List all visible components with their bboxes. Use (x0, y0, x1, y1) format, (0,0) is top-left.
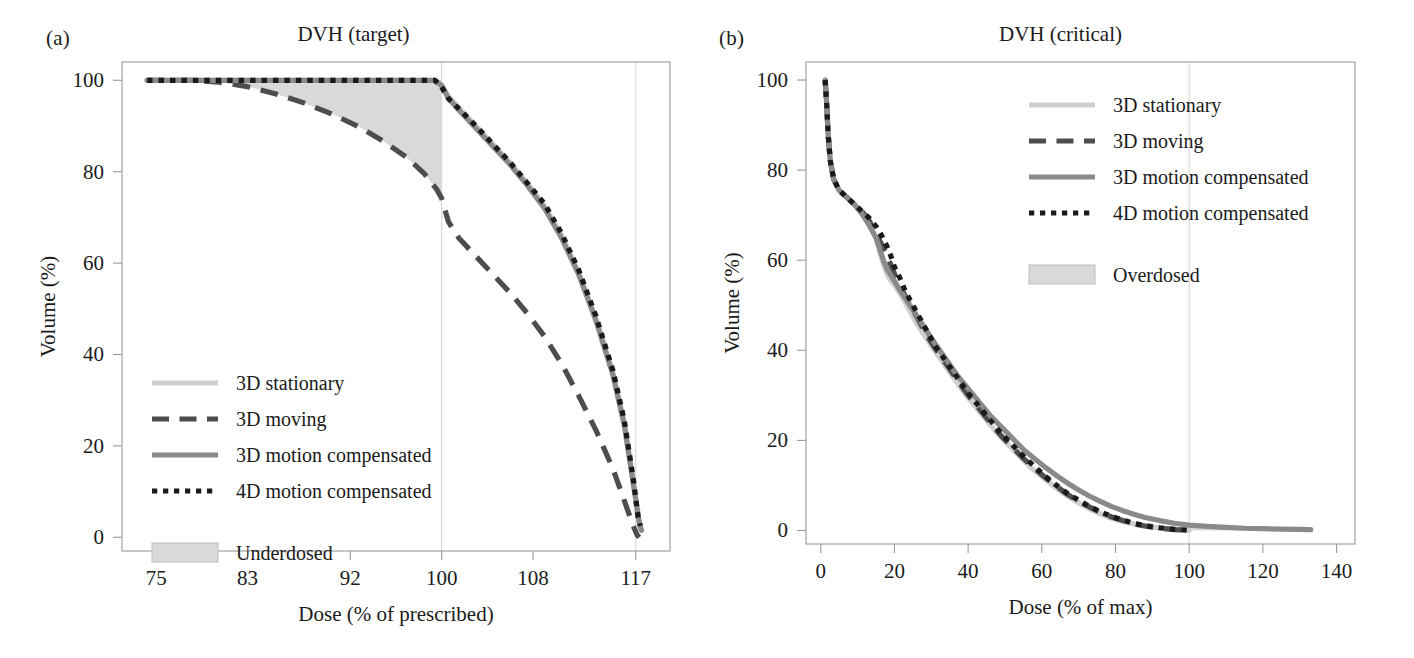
legend-label-4d-motion-compensated: 4D motion compensated (236, 480, 432, 503)
legend-label-overdosed: Overdosed (1113, 264, 1200, 286)
x-axis-title: Dose (% of max) (1008, 595, 1152, 619)
legend-label-3d-stationary: 3D stationary (236, 372, 344, 395)
x-tick-label-100: 100 (426, 566, 458, 590)
x-tick-label-75: 75 (146, 566, 167, 590)
x-tick-label-60: 60 (1031, 559, 1052, 583)
x-tick-label-100: 100 (1173, 559, 1205, 583)
panel-b-plot: 020406080100120140020406080100Dose (% of… (707, 0, 1414, 658)
x-tick-label-120: 120 (1247, 559, 1279, 583)
y-tick-label-80: 80 (83, 160, 104, 184)
panel-a-plot: 758392100108117020406080100Dose (% of pr… (0, 0, 707, 658)
x-tick-label-40: 40 (958, 559, 979, 583)
legend-label-4d-motion-compensated: 4D motion compensated (1113, 202, 1309, 225)
series-3d-moving (147, 80, 639, 537)
y-tick-label-60: 60 (767, 248, 788, 272)
y-tick-label-20: 20 (83, 434, 104, 458)
legend-label-3d-motion-compensated: 3D motion compensated (1113, 166, 1309, 189)
y-tick-label-0: 0 (778, 518, 789, 542)
plot-frame (806, 62, 1355, 544)
legend-swatch-underdosed (152, 543, 218, 562)
x-tick-label-140: 140 (1321, 559, 1353, 583)
x-tick-label-20: 20 (884, 559, 905, 583)
panel-a-title: DVH (target) (0, 22, 707, 47)
x-tick-label-92: 92 (340, 566, 361, 590)
y-axis-title: Volume (%) (720, 252, 744, 354)
y-tick-label-40: 40 (767, 338, 788, 362)
x-tick-label-83: 83 (237, 566, 258, 590)
y-tick-label-0: 0 (94, 525, 105, 549)
panel-a: (a) DVH (target) 75839210010811702040608… (0, 0, 707, 658)
x-tick-label-108: 108 (517, 566, 549, 590)
y-tick-label-80: 80 (767, 158, 788, 182)
dvh-figure: (a) DVH (target) 75839210010811702040608… (0, 0, 1414, 658)
legend-label-3d-motion-compensated: 3D motion compensated (236, 444, 432, 467)
legend-label-3d-moving: 3D moving (1113, 130, 1204, 153)
y-axis-title: Volume (%) (36, 256, 60, 358)
x-axis-title: Dose (% of prescribed) (298, 602, 493, 626)
x-tick-label-80: 80 (1105, 559, 1126, 583)
y-tick-label-20: 20 (767, 428, 788, 452)
legend-label-3d-moving: 3D moving (236, 408, 327, 431)
x-tick-label-0: 0 (815, 559, 826, 583)
legend-label-underdosed: Underdosed (236, 542, 333, 564)
y-tick-label-100: 100 (73, 68, 105, 92)
y-tick-label-40: 40 (83, 342, 104, 366)
y-tick-label-60: 60 (83, 251, 104, 275)
panel-b-title: DVH (critical) (707, 22, 1414, 47)
panel-b: (b) DVH (critical) 020406080100120140020… (707, 0, 1414, 658)
legend-label-3d-stationary: 3D stationary (1113, 94, 1221, 117)
series-3d-motion-compensated (825, 80, 1311, 530)
x-tick-label-117: 117 (620, 566, 651, 590)
y-tick-label-100: 100 (757, 68, 789, 92)
legend-swatch-overdosed (1029, 265, 1095, 284)
